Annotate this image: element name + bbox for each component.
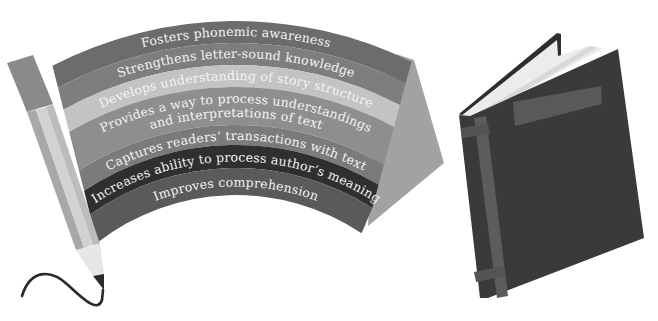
pencil-line xyxy=(22,274,103,305)
book-icon xyxy=(459,33,644,298)
pencil-tip xyxy=(93,274,104,290)
illustration: Fosters phonemic awareness Strengthens l… xyxy=(0,0,658,321)
pencil-eraser xyxy=(7,55,53,112)
